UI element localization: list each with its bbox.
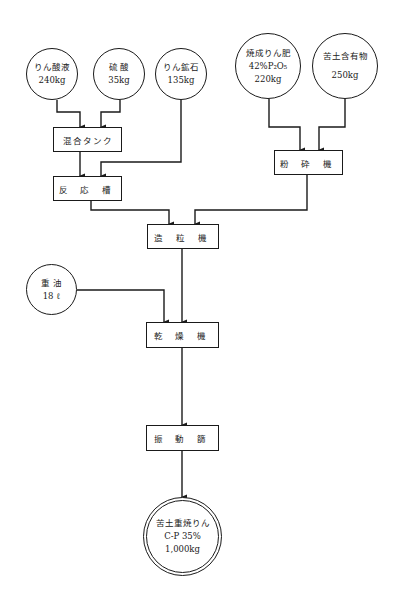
process-mixing-tank: 混合タンク	[53, 127, 122, 152]
process-label: 乾 燥 機	[154, 329, 211, 341]
input-name: りん酸液	[34, 61, 70, 74]
input-amount: 135kg	[168, 74, 195, 87]
output-product: 苦土重焼りん C-P 35% 1,000kg	[143, 497, 222, 576]
edge-heavy-oil-to-dryer	[77, 290, 164, 322]
process-label: 混合タンク	[63, 134, 113, 146]
input-calcined-phosphate: 焼成りん肥 42%P₂O₅ 220kg	[235, 33, 301, 99]
input-spec: 42%P₂O₅	[249, 60, 287, 73]
process-label: 反 応 槽	[59, 183, 116, 195]
process-label: 造 粒 機	[154, 231, 211, 243]
process-reaction-tank: 反 応 槽	[53, 176, 122, 201]
edge-reaction-tank-to-granulator	[91, 200, 169, 224]
input-magnesium-material: 苦土含有物 250kg	[312, 33, 378, 99]
edge-calcined-phosphate-to-crusher	[269, 99, 300, 150]
edge-sulfuric-acid-to-mixing-tank	[101, 100, 120, 127]
process-vibrating-screen: 振 動 篩	[146, 425, 219, 451]
process-crusher: 粉 砕 機	[274, 150, 343, 175]
output-inner-ring	[146, 500, 219, 573]
input-amount: 250kg	[332, 69, 359, 82]
input-phosphoric-acid: りん酸液 240kg	[26, 48, 78, 100]
input-heavy-oil: 重 油 18 ℓ	[26, 264, 77, 315]
input-name: 重 油	[41, 277, 62, 290]
input-amount: 220kg	[255, 73, 282, 86]
input-amount: 35kg	[108, 74, 129, 87]
edge-phosphoric-acid-to-mixing-tank	[57, 100, 80, 127]
process-granulator: 造 粒 機	[147, 224, 219, 249]
input-name: 苦土含有物	[323, 50, 368, 63]
input-sulfuric-acid: 硫 酸 35kg	[93, 48, 145, 100]
process-label: 粉 砕 機	[280, 157, 337, 169]
input-phosphate-rock: りん鉱石 135kg	[155, 48, 207, 100]
input-name: りん鉱石	[163, 61, 199, 74]
process-label: 振 動 篩	[154, 432, 211, 444]
edge-magnesium-to-crusher	[319, 99, 345, 150]
input-name: 焼成りん肥	[246, 47, 291, 60]
input-amount: 240kg	[39, 74, 66, 87]
process-dryer: 乾 燥 機	[146, 322, 219, 348]
input-name: 硫 酸	[109, 61, 130, 74]
input-amount: 18 ℓ	[43, 290, 61, 303]
edge-crusher-to-granulator	[195, 174, 307, 224]
